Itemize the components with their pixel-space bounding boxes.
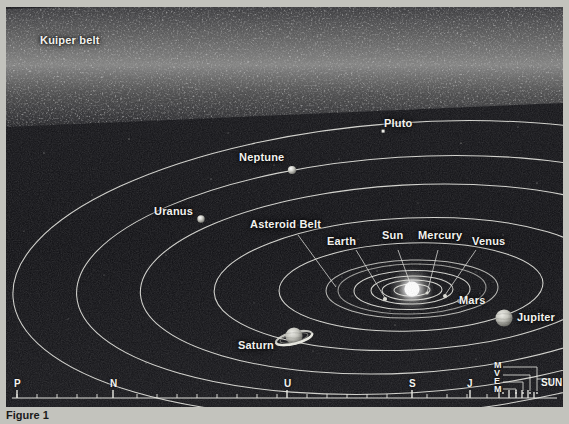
label-sun: Sun <box>382 229 403 241</box>
label-uranus: Uranus <box>154 205 193 217</box>
scale-tick-label-saturn: S <box>409 378 416 389</box>
body-uranus <box>197 215 204 222</box>
label-pluto: Pluto <box>384 117 413 129</box>
body-jupiter <box>495 309 512 326</box>
scale-tick-label-sun: SUN <box>541 377 562 388</box>
body-earth <box>383 297 387 301</box>
scale-tick-label-jupiter: J <box>467 378 473 389</box>
illustration-plate: Kuiper belt Pluto Neptune Uranus Asteroi… <box>6 7 563 407</box>
label-mercury: Mercury <box>418 229 462 241</box>
solar-system-figure: Kuiper belt Pluto Neptune Uranus Asteroi… <box>0 0 569 424</box>
scale-tick-label-neptune: N <box>110 378 117 389</box>
label-mars: Mars <box>459 294 485 306</box>
body-venus <box>443 294 447 298</box>
scale-tick-label-mercury: M <box>494 385 502 394</box>
scale-tick-label-pluto: P <box>14 378 21 389</box>
body-sun <box>390 267 434 311</box>
label-kuiper-belt: Kuiper belt <box>40 34 100 46</box>
body-neptune <box>288 166 296 174</box>
figure-caption: Figure 1 <box>6 409 406 424</box>
body-pluto <box>382 130 385 133</box>
label-saturn: Saturn <box>238 339 274 351</box>
scale-tick-label-uranus: U <box>284 378 291 389</box>
label-asteroid-belt: Asteroid Belt <box>250 218 321 230</box>
label-earth: Earth <box>327 235 356 247</box>
label-neptune: Neptune <box>239 151 284 163</box>
label-venus: Venus <box>472 235 505 247</box>
label-jupiter: Jupiter <box>517 311 555 323</box>
solar-system-canvas <box>6 7 563 407</box>
